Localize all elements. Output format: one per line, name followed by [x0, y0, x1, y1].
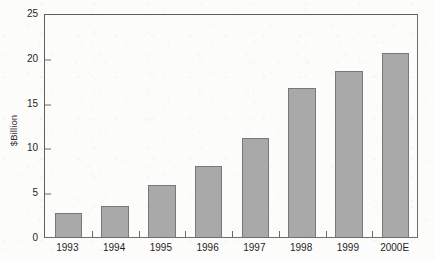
bar [148, 185, 175, 237]
x-axis-tick-label: 1996 [197, 243, 219, 253]
x-axis-tick-mark [372, 231, 373, 237]
bar [101, 206, 128, 237]
bar [195, 166, 222, 237]
x-axis-tick-label: 1994 [103, 243, 125, 253]
y-axis-tick-label: 0 [16, 233, 38, 243]
y-axis-tick-mark [45, 194, 51, 195]
x-axis-tick-mark [326, 231, 327, 237]
y-axis-tick-label: 25 [16, 9, 38, 19]
x-axis-tick-mark [92, 231, 93, 237]
x-axis-tick-label: 1999 [337, 243, 359, 253]
x-axis-tick-mark [185, 231, 186, 237]
bar-chart-figure: $Billion 0510152025 19931994199519961997… [0, 0, 435, 260]
x-axis-tick-label: 2000E [380, 243, 409, 253]
y-axis-tick-label: 5 [16, 188, 38, 198]
y-axis-tick-label: 20 [16, 54, 38, 64]
x-axis-tick-label: 1997 [243, 243, 265, 253]
bar [335, 71, 362, 237]
x-axis-tick-label: 1998 [290, 243, 312, 253]
bar [55, 213, 82, 237]
plot-area [44, 14, 418, 238]
bar [382, 53, 409, 237]
y-axis-tick-label: 10 [16, 143, 38, 153]
y-axis-tick-mark [45, 149, 51, 150]
bar [242, 138, 269, 237]
x-axis-tick-mark [279, 231, 280, 237]
y-axis-tick-mark [45, 59, 51, 60]
y-axis-tick-label: 15 [16, 99, 38, 109]
x-axis-tick-mark [232, 231, 233, 237]
x-axis-tick-mark [139, 231, 140, 237]
x-axis-tick-label: 1993 [56, 243, 78, 253]
x-axis-tick-label: 1995 [150, 243, 172, 253]
y-axis-tick-labels: 0510152025 [13, 0, 38, 260]
y-axis-tick-mark [45, 104, 51, 105]
bar [288, 88, 315, 237]
